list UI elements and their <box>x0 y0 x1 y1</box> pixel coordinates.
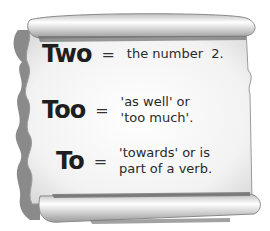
definition-two: the number 2. <box>127 46 224 62</box>
definition-to: 'towards' or is part of a verb. <box>119 145 212 177</box>
entry-too: Too = 'as well' or 'too much'. <box>42 94 193 126</box>
word-to: To <box>56 147 84 175</box>
equals-sign: = <box>95 101 108 120</box>
entry-to: To = 'towards' or is part of a verb. <box>56 145 212 177</box>
word-two: Two <box>42 40 91 68</box>
word-too: Too <box>42 96 85 124</box>
definition-too: 'as well' or 'too much'. <box>121 94 194 126</box>
equals-sign: = <box>101 45 114 64</box>
equals-sign: = <box>94 152 107 171</box>
entry-two: Two = the number 2. <box>42 40 224 68</box>
